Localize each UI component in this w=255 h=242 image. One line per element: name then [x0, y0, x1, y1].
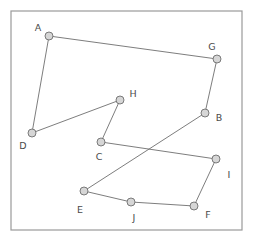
node-label-i: I [228, 169, 231, 180]
graph-node-f[interactable] [190, 202, 198, 210]
graph-canvas: AGDHBCIEJF [0, 0, 255, 242]
graph-node-d[interactable] [28, 129, 36, 137]
graph-node-h[interactable] [116, 96, 124, 104]
graph-node-a[interactable] [45, 32, 53, 40]
graph-node-c[interactable] [97, 138, 105, 146]
node-label-f: F [205, 209, 210, 220]
node-label-c: C [96, 151, 103, 162]
node-label-b: B [216, 112, 223, 123]
graph-node-i[interactable] [212, 155, 220, 163]
node-label-a: A [35, 22, 42, 33]
graph-node-j[interactable] [127, 198, 135, 206]
node-label-d: D [19, 140, 26, 151]
node-label-e: E [77, 204, 83, 215]
node-label-h: H [129, 88, 136, 99]
graph-node-b[interactable] [201, 109, 209, 117]
graph-node-e[interactable] [80, 187, 88, 195]
node-label-j: J [132, 212, 136, 223]
graph-node-g[interactable] [213, 55, 221, 63]
graph-diagram: AGDHBCIEJF [0, 0, 255, 242]
node-label-g: G [208, 41, 215, 52]
